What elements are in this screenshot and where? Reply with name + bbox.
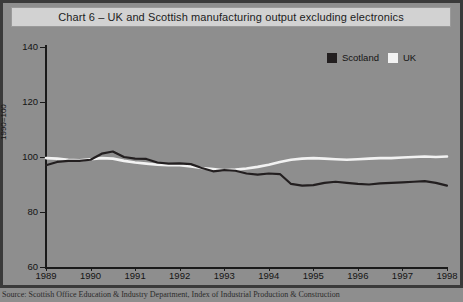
- legend-label: Scotland: [342, 52, 379, 63]
- legend-swatch-icon: [388, 53, 398, 63]
- x-tick-mark: [269, 267, 270, 271]
- x-tick-label: 1992: [160, 271, 200, 281]
- x-tick-label: 1996: [338, 271, 378, 281]
- legend-swatch-icon: [327, 53, 337, 63]
- y-axis-label: 1990=100: [0, 104, 8, 140]
- page-title: Chart 6 – UK and Scottish manufacturing …: [58, 11, 404, 23]
- legend-entry: Scotland: [327, 52, 379, 63]
- x-tick-label: 1990: [71, 271, 111, 281]
- y-tick-mark: [40, 267, 45, 268]
- x-tick-mark: [447, 267, 448, 271]
- x-tick-mark: [91, 267, 92, 271]
- y-tick-label: 140: [12, 42, 38, 52]
- x-tick-mark: [224, 267, 225, 271]
- chart-figure: Chart 6 – UK and Scottish manufacturing …: [0, 0, 463, 302]
- x-tick-label: 1994: [249, 271, 289, 281]
- x-tick-mark: [313, 267, 314, 271]
- x-tick-label: 1989: [26, 271, 66, 281]
- y-tick-mark: [40, 102, 45, 103]
- x-tick-label: 1993: [204, 271, 244, 281]
- y-tick-mark: [40, 157, 45, 158]
- chart-legend: ScotlandUK: [327, 52, 416, 63]
- x-tick-label: 1997: [382, 271, 422, 281]
- y-tick-label: 100: [12, 152, 38, 162]
- y-tick-mark: [40, 47, 45, 48]
- x-tick-mark: [402, 267, 403, 271]
- x-tick-mark: [46, 267, 47, 271]
- x-tick-label: 1998: [427, 271, 463, 281]
- y-tick-label: 120: [12, 97, 38, 107]
- y-axis-line: [45, 45, 47, 269]
- x-tick-mark: [358, 267, 359, 271]
- legend-label: UK: [403, 52, 416, 63]
- x-tick-mark: [135, 267, 136, 271]
- y-tick-label: 80: [12, 207, 38, 217]
- y-tick-mark: [40, 212, 45, 213]
- x-tick-label: 1995: [293, 271, 333, 281]
- x-tick-mark: [180, 267, 181, 271]
- chart-frame: [0, 0, 463, 288]
- x-axis-line: [45, 267, 448, 269]
- chart-title-plate: Chart 6 – UK and Scottish manufacturing …: [11, 7, 451, 27]
- legend-entry: UK: [388, 52, 416, 63]
- x-tick-label: 1991: [115, 271, 155, 281]
- source-note: Source: Scottish Office Education & Indu…: [2, 290, 463, 299]
